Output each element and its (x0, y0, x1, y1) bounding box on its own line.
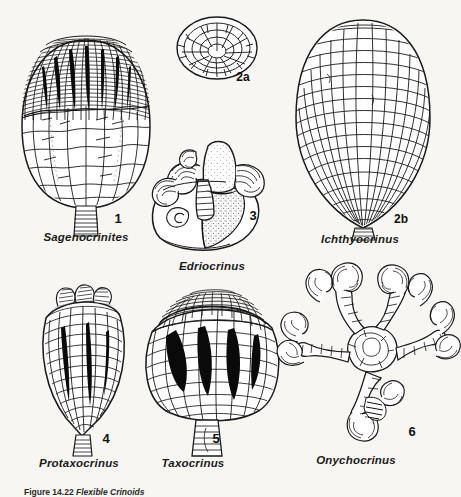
caption-text: Flexible Crinoids (76, 487, 145, 497)
figure-label-protaxocrinus: Protaxocrinus (39, 457, 119, 469)
figure-label-edriocrinus: Edriocrinus (179, 260, 245, 272)
figure-number-3: 3 (249, 208, 256, 223)
figure-number-6: 6 (408, 424, 415, 439)
figure-label-sagenocrinites: Sagenocrinites (43, 231, 128, 243)
figure-label-taxocrinus: Taxocrinus (162, 457, 225, 469)
figure-number-2a: 2a (236, 70, 249, 84)
caption-number: 14.22 (52, 487, 73, 497)
plate-caption: Figure 14.22 Flexible Crinoids (24, 487, 145, 497)
figure-number-2b: 2b (394, 212, 408, 226)
figure-label-ichthyocrinus: Ichthyocrinus (321, 233, 399, 245)
protaxocrinus-stem (73, 435, 92, 456)
figure-number-4: 4 (102, 431, 109, 446)
figure-number-5: 5 (212, 431, 219, 446)
figure-label-onychocrinus: Onychocrinus (316, 454, 396, 466)
figure-number-1: 1 (114, 211, 121, 226)
caption-prefix: Figure (24, 487, 50, 497)
